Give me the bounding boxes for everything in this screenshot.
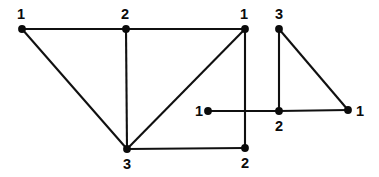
vertex-node-1 bbox=[18, 25, 26, 33]
vertex-label-1: 1 bbox=[17, 6, 25, 22]
vertex-label-3: 3 bbox=[123, 156, 131, 172]
vertex-label-2: 2 bbox=[275, 118, 283, 134]
vertex-node-1 bbox=[344, 106, 352, 114]
labels-layer: 121323121 bbox=[17, 6, 364, 172]
edge-3-1-diagonal bbox=[279, 29, 348, 110]
edges-layer bbox=[22, 29, 348, 149]
edge-1-3-inner-diagonal bbox=[127, 29, 245, 149]
vertex-node-2 bbox=[122, 25, 130, 33]
edge-2-1-horizontal bbox=[279, 110, 348, 111]
edge-1-3-left-diagonal bbox=[22, 29, 127, 149]
vertex-node-3 bbox=[123, 145, 131, 153]
vertex-node-3 bbox=[275, 25, 283, 33]
vertex-node-2 bbox=[275, 107, 283, 115]
vertex-node-2 bbox=[241, 144, 249, 152]
vertex-node-1 bbox=[241, 25, 249, 33]
edge-2-3-vertical bbox=[126, 29, 127, 149]
vertex-label-1: 1 bbox=[240, 6, 248, 22]
graph-figure: 121323121 bbox=[0, 0, 379, 177]
vertex-label-1: 1 bbox=[356, 103, 364, 119]
vertex-node-1 bbox=[204, 107, 212, 115]
vertex-label-3: 3 bbox=[275, 6, 283, 22]
vertex-label-2: 2 bbox=[241, 155, 249, 171]
graph-canvas: 121323121 bbox=[0, 0, 379, 177]
vertex-label-1: 1 bbox=[195, 103, 203, 119]
vertex-label-2: 2 bbox=[121, 6, 129, 22]
edge-3-2-bottom bbox=[127, 148, 245, 149]
